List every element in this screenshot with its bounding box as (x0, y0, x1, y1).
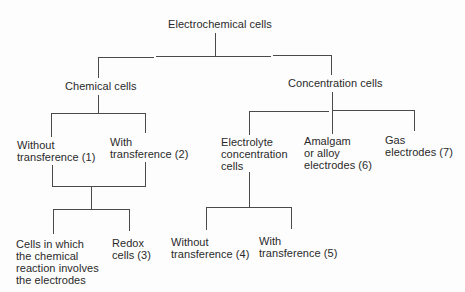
node-without-transference-4: Without transference (4) (171, 236, 249, 260)
node-with-transference-2: With transference (2) (110, 136, 188, 160)
node-amalgam-alloy-electrodes: Amalgam or alloy electrodes (6) (304, 135, 372, 171)
edge-concentration-bar (249, 111, 415, 112)
edge-root-bar (98, 56, 331, 58)
node-chemical-cells: Chemical cells (65, 80, 137, 92)
node-redox-cells-3: Redox cells (3) (112, 237, 151, 261)
node-without-transference-1: Without transference (1) (17, 139, 95, 163)
node-chemical-reaction-electrodes: Cells in which the chemical reaction inv… (16, 238, 99, 286)
node-electrolyte-concentration-cells: Electrolyte concentration cells (221, 136, 288, 172)
node-electrochemical-cells: Electrochemical cells (168, 18, 272, 30)
node-with-transference-5: With transference (5) (259, 235, 337, 259)
electrochemical-cells-diagram: Electrochemical cells Chemical cells Con… (0, 0, 465, 292)
node-concentration-cells: Concentration cells (288, 77, 383, 89)
node-gas-electrodes: Gas electrodes (7) (385, 134, 453, 158)
